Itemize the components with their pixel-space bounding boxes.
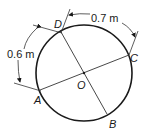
label-a: A (33, 94, 41, 106)
dimension-label-0-7m: 0.7 m (91, 12, 119, 24)
arc-dimension-dc-right (122, 23, 135, 37)
arc-dimension-dc-left (69, 14, 90, 15)
arc-dimension-ad-lower (18, 60, 20, 82)
label-o: O (77, 79, 86, 91)
label-d: D (54, 18, 62, 30)
circle-diagram: A B C D O 0.6 m 0.7 m (0, 0, 151, 133)
dimension-label-0-6m: 0.6 m (7, 48, 35, 60)
arc-dimension-ad-upper (24, 28, 37, 49)
label-b: B (109, 118, 116, 130)
label-c: C (130, 52, 138, 64)
center-point (83, 72, 85, 74)
